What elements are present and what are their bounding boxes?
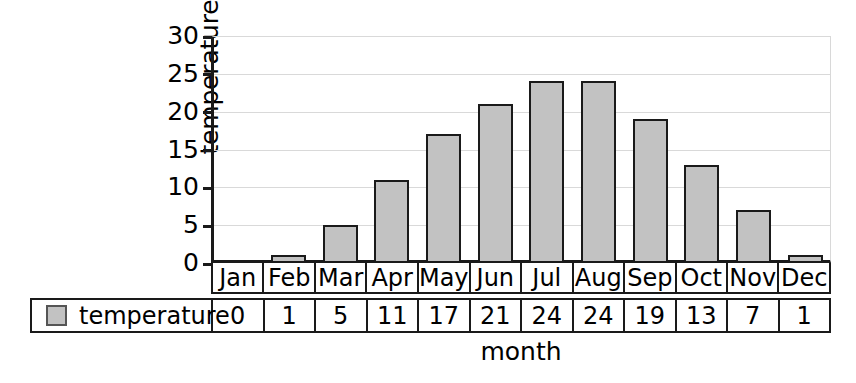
bar-mar — [323, 225, 358, 263]
month-header-cell: Jun — [471, 263, 522, 292]
month-header-cell: Apr — [367, 263, 418, 292]
bar-cell — [366, 36, 418, 263]
legend-swatch-icon — [46, 305, 67, 326]
bar-sep — [633, 119, 668, 263]
y-axis-tick-label: 20 — [139, 99, 199, 124]
y-axis-tick-label: 10 — [139, 174, 199, 199]
bar-cell — [314, 36, 366, 263]
y-axis-tick-label: 0 — [139, 250, 199, 275]
data-value-cell: 24 — [574, 300, 626, 331]
bar-cell — [521, 36, 573, 263]
bar-aug — [581, 81, 616, 263]
data-value-cell: 24 — [522, 300, 574, 331]
bar-cell — [624, 36, 676, 263]
bar-nov — [736, 210, 771, 263]
legend-label: temperature — [79, 304, 230, 328]
data-value-cell: 1 — [265, 300, 317, 331]
data-table-row: temperature 0151117212424191371 — [30, 298, 831, 333]
month-header-cell: May — [419, 263, 471, 292]
y-axis-tick-label: 30 — [139, 23, 199, 48]
bar-cell — [779, 36, 831, 263]
bar-jul — [529, 81, 564, 263]
bar-cell — [573, 36, 625, 263]
month-header-cell: Sep — [625, 263, 676, 292]
data-value-cell: 17 — [419, 300, 471, 331]
x-axis-title: month — [211, 338, 831, 366]
data-value-cell: 19 — [625, 300, 677, 331]
month-header-cell: Aug — [574, 263, 625, 292]
data-value-cell: 5 — [316, 300, 368, 331]
data-value-cell: 13 — [677, 300, 729, 331]
y-axis-tick-label: 5 — [139, 212, 199, 237]
bars-layer — [211, 36, 831, 263]
bar-feb — [271, 255, 306, 263]
month-header-cell: Jan — [213, 263, 264, 292]
data-value-cell: 21 — [471, 300, 523, 331]
bar-cell — [469, 36, 521, 263]
bar-dec — [788, 255, 823, 263]
bar-apr — [374, 180, 409, 263]
month-header-cell: Dec — [779, 263, 828, 292]
month-header-cell: Nov — [728, 263, 779, 292]
month-header-cell: Jul — [522, 263, 573, 292]
data-value-cell: 0 — [213, 300, 265, 331]
month-header-cell: Feb — [264, 263, 315, 292]
y-axis-tick-labels: 302520151050 — [135, 36, 199, 263]
bar-jun — [478, 104, 513, 263]
bar-cell — [676, 36, 728, 263]
y-axis-tick-label: 25 — [139, 61, 199, 86]
month-header-cell: Mar — [316, 263, 367, 292]
legend-cell: temperature — [32, 300, 213, 331]
data-value-cell: 1 — [780, 300, 830, 331]
bar-cell — [418, 36, 470, 263]
data-value-cell: 11 — [368, 300, 420, 331]
month-header-row: JanFebMarAprMayJunJulAugSepOctNovDec — [211, 263, 831, 294]
bar-cell — [263, 36, 315, 263]
bar-cell — [211, 36, 263, 263]
bar-may — [426, 134, 461, 263]
bar-oct — [684, 165, 719, 263]
y-axis-tick-label: 15 — [139, 137, 199, 162]
bar-chart: temperature 302520151050 JanFebMarAprMay… — [0, 0, 856, 383]
month-header-cell: Oct — [677, 263, 728, 292]
bar-cell — [728, 36, 780, 263]
data-value-cell: 7 — [728, 300, 780, 331]
